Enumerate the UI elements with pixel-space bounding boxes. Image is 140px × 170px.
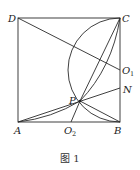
label-c: C (122, 13, 130, 24)
segment-d-o1 (18, 18, 120, 70)
label-o2: O 2 (64, 125, 76, 138)
square-abcd (18, 18, 120, 122)
label-b: B (113, 125, 121, 136)
svg-text:1: 1 (130, 70, 134, 78)
label-d: D (7, 13, 16, 24)
point-p-dot (79, 100, 82, 103)
geometry-figure: D C A B P N O 1 O 2 图 1 (0, 0, 140, 170)
svg-text:O: O (64, 125, 72, 136)
segment-p-b (80, 101, 120, 122)
figure-caption: 图 1 (60, 153, 80, 164)
label-a: A (13, 125, 21, 136)
label-p: P (68, 95, 76, 106)
svg-text:2: 2 (72, 130, 76, 138)
svg-text:O: O (122, 65, 130, 76)
label-o1: O 1 (122, 65, 134, 78)
label-n: N (122, 84, 133, 95)
